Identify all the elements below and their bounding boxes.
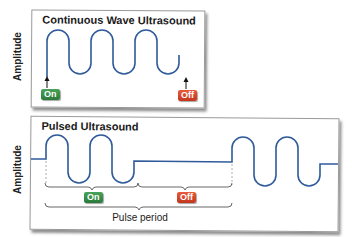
- pulsed-on-badge: On: [84, 192, 103, 203]
- pulsed-ultrasound-panel: Pulsed Ultrasound: [30, 116, 340, 233]
- pulsed-amplitude-axis-label: Amplitude: [12, 140, 23, 200]
- pulse-period-label: Pulse period: [109, 212, 171, 223]
- continuous-wave-title: Continuous Wave Ultrasound: [42, 13, 196, 26]
- continuous-on-badge: On: [41, 89, 60, 100]
- continuous-amplitude-axis-label: Amplitude: [12, 27, 23, 87]
- continuous-off-badge: Off: [178, 90, 197, 101]
- pulsed-ultrasound-title: Pulsed Ultrasound: [41, 120, 138, 133]
- pulsed-off-badge: Off: [177, 192, 196, 203]
